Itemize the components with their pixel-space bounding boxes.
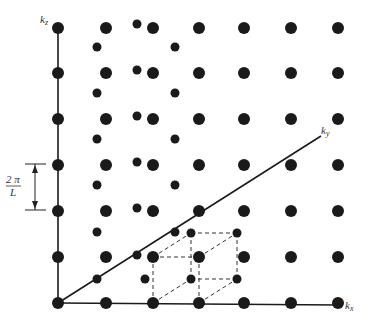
lattice-point-front — [332, 205, 344, 217]
lattice-point-back — [133, 251, 142, 260]
lattice-point-back — [93, 181, 102, 190]
lattice-point-back — [93, 228, 102, 237]
lattice-point-front — [100, 67, 112, 79]
lattice-point-front — [193, 22, 205, 34]
unit-cell-dashed-cube — [153, 233, 237, 303]
lattice-point-front — [193, 67, 205, 79]
lattice-point-front — [193, 205, 205, 217]
lattice-point-front — [238, 22, 250, 34]
lattice-point-front — [52, 22, 64, 34]
lattice-point-back — [133, 112, 142, 121]
lattice-point-front — [193, 297, 205, 309]
lattice-point-back — [93, 275, 102, 284]
lattice-point-front — [332, 113, 344, 125]
lattice-point-back — [133, 204, 142, 213]
lattice-point-front — [285, 251, 297, 263]
lattice-point-front — [147, 297, 159, 309]
lattice-point-front — [100, 251, 112, 263]
lattice-point-front — [285, 205, 297, 217]
lattice-point-front — [52, 159, 64, 171]
lattice-point-front — [332, 251, 344, 263]
lattice-point-back — [133, 20, 142, 29]
lattice-point-front — [100, 113, 112, 125]
fraction-denominator: L — [9, 186, 16, 198]
lattice-point-front — [332, 159, 344, 171]
lattice-point-front — [147, 205, 159, 217]
lattice-point-front — [332, 67, 344, 79]
lattice-point-back — [133, 66, 142, 75]
spacing-annotation-2pi-over-L: 2 π L — [6, 164, 46, 210]
lattice-point-front — [285, 297, 297, 309]
lattice-point-front — [238, 67, 250, 79]
lattice-point-front — [147, 159, 159, 171]
lattice-point-front — [52, 113, 64, 125]
lattice-point-front — [332, 297, 344, 309]
lattice-point-back — [93, 43, 102, 52]
cell-depth-edge — [199, 279, 237, 303]
lattice-point-front — [238, 251, 250, 263]
fraction-numerator: 2 π — [6, 173, 20, 185]
lattice-point-back — [187, 275, 196, 284]
lattice-point-front — [238, 297, 250, 309]
lattice-point-front — [238, 159, 250, 171]
svg-text:kx: kx — [345, 299, 354, 313]
lattice-point-front — [52, 251, 64, 263]
cell-depth-edge — [153, 233, 191, 257]
lattice-point-front — [238, 205, 250, 217]
svg-text:kz: kz — [40, 13, 49, 27]
cell-depth-edge — [153, 279, 191, 303]
lattice-point-front — [100, 297, 112, 309]
lattice-point-front — [285, 22, 297, 34]
lattice-point-front — [100, 205, 112, 217]
lattice-point-front — [100, 22, 112, 34]
lattice-point-back — [233, 275, 242, 284]
lattice-point-back — [171, 181, 180, 190]
lattice-point-back — [133, 158, 142, 167]
lattice-point-front — [285, 159, 297, 171]
lattice-point-back — [93, 89, 102, 98]
lattice-point-back — [171, 43, 180, 52]
lattice-point-front — [147, 22, 159, 34]
lattice-point-back — [171, 228, 180, 237]
lattice-point-back — [171, 135, 180, 144]
kz-axis-label: kz — [40, 13, 49, 27]
ky-axis-label: ky — [321, 124, 330, 138]
front-lattice-points — [52, 22, 344, 309]
svg-text:ky: ky — [321, 124, 330, 138]
arrow-up-icon — [32, 165, 38, 173]
lattice-point-front — [332, 22, 344, 34]
cell-depth-edge — [199, 233, 237, 257]
lattice-point-front — [52, 205, 64, 217]
lattice-point-front — [285, 113, 297, 125]
lattice-point-front — [238, 113, 250, 125]
lattice-point-back — [141, 275, 150, 284]
lattice-point-front — [147, 113, 159, 125]
lattice-point-front — [193, 251, 205, 263]
lattice-point-front — [147, 251, 159, 263]
lattice-point-front — [100, 159, 112, 171]
lattice-point-front — [52, 67, 64, 79]
lattice-point-front — [193, 159, 205, 171]
arrow-down-icon — [32, 201, 38, 209]
lattice-point-front — [285, 67, 297, 79]
lattice-point-front — [193, 113, 205, 125]
lattice-point-back — [171, 89, 180, 98]
lattice-point-back — [187, 229, 196, 238]
kx-axis-label: kx — [345, 299, 354, 313]
lattice-point-back — [233, 229, 242, 238]
lattice-point-front — [52, 297, 64, 309]
lattice-point-back — [93, 135, 102, 144]
k-space-lattice-diagram: kz ky kx 2 π L — [0, 0, 371, 326]
lattice-point-front — [147, 67, 159, 79]
